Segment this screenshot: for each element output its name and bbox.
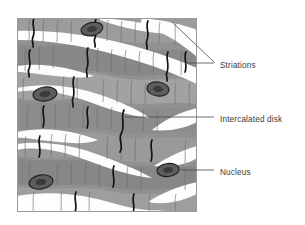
intercalated-disk-line	[39, 136, 40, 157]
label-intercalated-disk: Intercalated disk	[220, 115, 283, 124]
intercalated-disk-line	[133, 194, 134, 212]
intercalated-disk-line	[43, 106, 44, 127]
intercalated-disk-line	[113, 166, 114, 187]
micrograph-panel	[17, 18, 197, 212]
intercalated-disk-line	[75, 192, 76, 212]
label-striations: Striations	[220, 61, 256, 70]
cardiac-muscle-figure: Striations Intercalated disk Nucleus	[0, 0, 305, 225]
intercalated-disk-line	[151, 140, 152, 161]
figure-root: Striations Intercalated disk Nucleus	[0, 0, 305, 225]
intercalated-disk-line	[87, 107, 88, 128]
label-nucleus: Nucleus	[220, 168, 251, 177]
intercalated-disk-line	[185, 52, 186, 72]
labels-group: Striations Intercalated disk Nucleus	[220, 61, 283, 177]
